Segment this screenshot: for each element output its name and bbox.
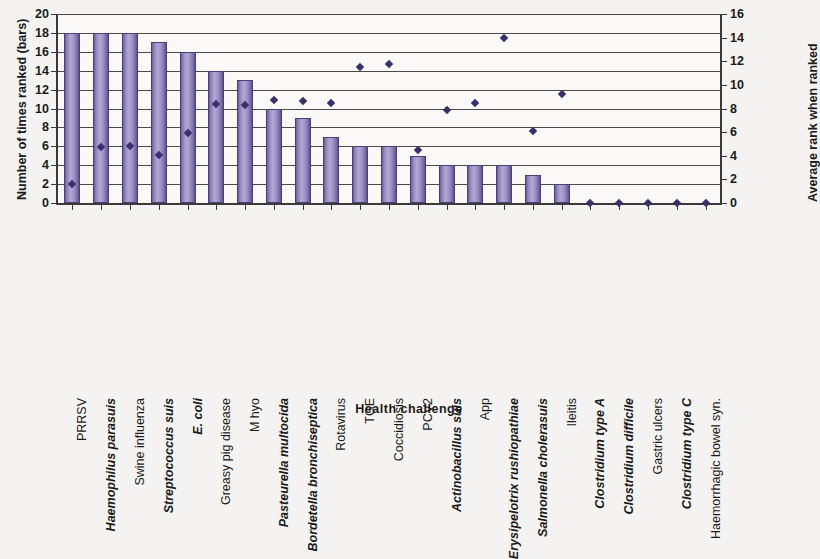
bar-slot [519,14,548,203]
y-axis-left-tick [51,33,58,34]
x-axis-category-label: Pasteurella multocida [277,398,291,527]
y-axis-right-tick [720,179,727,180]
y-axis-left-tick-label: 6 [42,139,49,153]
y-axis-left-tick [51,14,58,15]
bar-slot [87,14,116,203]
y-axis-right-tick-label: 12 [730,54,744,68]
bar-slot [202,14,231,203]
y-axis-right-tick [720,14,727,15]
y-axis-left-tick [51,109,58,110]
bar[interactable] [525,175,541,203]
y-axis-left-tick-label: 8 [42,120,49,134]
average-rank-marker[interactable] [385,59,393,67]
x-axis-category-label: Erysipelotrix rushiopathiae [507,398,521,559]
bar-slot [605,14,634,203]
bar[interactable] [122,33,138,203]
y-axis-right-tick-label: 16 [730,7,744,21]
bar[interactable] [93,33,109,203]
y-axis-left-tick [51,165,58,166]
bar-slot [662,14,691,203]
average-rank-marker[interactable] [471,98,479,106]
y-axis-left-tick [51,71,58,72]
average-rank-marker[interactable] [557,90,565,98]
bar[interactable] [151,42,167,203]
y-axis-left-tick-label: 0 [42,196,49,210]
y-axis-left-tick-label: 20 [35,7,49,21]
y-axis-left-tick [51,146,58,147]
y-axis-right-tick-label: 0 [730,196,737,210]
y-axis-right-tick [720,61,727,62]
y-axis-left-tick [51,203,58,204]
bar-slot [375,14,404,203]
bar-slot [58,14,87,203]
bar-slot [403,14,432,203]
bar[interactable] [381,146,397,203]
bar[interactable] [323,137,339,203]
bar-slot [461,14,490,203]
bar[interactable] [295,118,311,203]
bar-slot [432,14,461,203]
y-axis-left-tick-label: 4 [42,158,49,172]
bar-slot [173,14,202,203]
y-axis-right-tick [720,132,727,133]
bar[interactable] [410,156,426,203]
average-rank-marker[interactable] [356,63,364,71]
bar[interactable] [208,71,224,203]
bar-series [58,14,720,203]
y-axis-right-tick-label: 14 [730,31,744,45]
bar[interactable] [64,33,80,203]
bar[interactable] [439,165,455,203]
y-axis-left-tick-label: 12 [35,83,49,97]
y-axis-left-tick-label: 18 [35,26,49,40]
bar-slot [576,14,605,203]
bar[interactable] [266,109,282,204]
y-axis-left-tick-label: 16 [35,45,49,59]
bar-slot [231,14,260,203]
bar[interactable] [352,146,368,203]
x-axis-category-label: Haemophilus parasuis [104,398,118,531]
y-axis-left-tick-label: 14 [35,64,49,78]
average-rank-marker[interactable] [327,98,335,106]
y-axis-left-tick [51,127,58,128]
y-axis-right-tick-label: 8 [730,102,737,116]
plot-area: 02468101214161820 0246810121416 [56,14,722,205]
bar[interactable] [237,80,253,203]
y-axis-right-tick-label: 4 [730,149,737,163]
bar-slot [490,14,519,203]
y-axis-left-tick [51,52,58,53]
y-axis-right-tick-label: 6 [730,125,737,139]
average-rank-marker[interactable] [270,96,278,104]
bar-slot [116,14,145,203]
x-axis-category-label: Haemorrhagic bowel syn. [709,398,723,539]
y-axis-right-tick [720,203,727,204]
average-rank-marker[interactable] [442,105,450,113]
y-axis-right-tick [720,156,727,157]
y-axis-right-tick-label: 10 [730,78,744,92]
bar-slot [547,14,576,203]
y-axis-left-tick-label: 2 [42,177,49,191]
bar-slot [346,14,375,203]
average-rank-marker[interactable] [529,127,537,135]
y-axis-right-tick-label: 2 [730,172,737,186]
bar[interactable] [467,165,483,203]
bar-slot [288,14,317,203]
bar[interactable] [496,165,512,203]
x-axis-labels: PRRSVHaemophilus parasuisSwine influenza… [56,206,718,402]
y-axis-right-title: Average rank when ranked [806,43,820,202]
x-axis-category-label: Bordetella bronchiseptica [306,398,320,552]
y-axis-left-title: Number of times ranked (bars) [15,19,29,200]
x-axis-title: Health challenge [0,402,818,416]
bar-slot [691,14,720,203]
bar[interactable] [554,184,570,203]
y-axis-left-tick [51,90,58,91]
average-rank-marker[interactable] [414,146,422,154]
y-axis-left-tick [51,184,58,185]
bar-slot [317,14,346,203]
y-axis-right-tick [720,109,727,110]
y-axis-left-tick-label: 10 [35,102,49,116]
average-rank-marker[interactable] [500,33,508,41]
x-axis-category-label: Salmonella cholerasuis [536,398,550,537]
y-axis-right-tick [720,85,727,86]
average-rank-marker[interactable] [298,97,306,105]
